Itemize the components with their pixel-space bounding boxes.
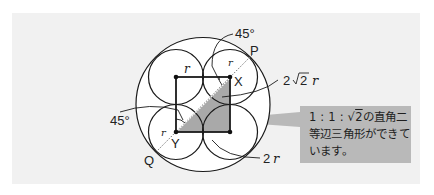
callout-line-2: 等辺三角形ができて	[309, 126, 411, 143]
svg-text:r: r	[312, 73, 319, 88]
callout-line-1: 1 : 1 : √2の直角二	[309, 109, 411, 126]
label-2r: 2 r	[263, 151, 280, 166]
label-p: P	[250, 43, 259, 58]
circles-diagram: 45° P X 45° Y Q r r r 2 2 r 2 r	[0, 0, 434, 195]
center-dot-top-left	[174, 75, 179, 80]
center-dot-y	[174, 130, 179, 135]
label-45-top: 45°	[235, 26, 255, 41]
callout-line-3: います。	[309, 143, 411, 160]
callout-box: 1 : 1 : √2の直角二 等辺三角形ができて います。	[300, 106, 411, 163]
center-dot-x	[228, 75, 233, 80]
label-2sqrt2r: 2 2 r	[283, 73, 319, 88]
svg-text:2: 2	[263, 151, 270, 166]
label-q: Q	[144, 153, 154, 168]
label-y: Y	[171, 136, 180, 151]
center-dot-bottom-right	[228, 130, 233, 135]
label-45-left: 45°	[110, 113, 130, 128]
label-x: X	[234, 74, 243, 89]
svg-text:2: 2	[300, 73, 307, 88]
svg-text:2: 2	[283, 73, 290, 88]
svg-text:r: r	[273, 151, 280, 166]
